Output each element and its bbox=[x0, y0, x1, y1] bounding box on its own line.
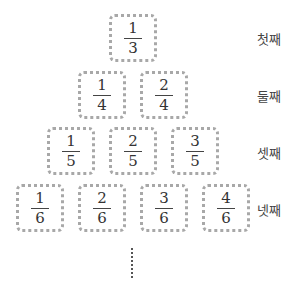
fraction-card-row4-4: 4 6 bbox=[202, 184, 250, 232]
denominator: 4 bbox=[97, 97, 107, 114]
fraction: 3 5 bbox=[186, 133, 204, 170]
fraction-card-row1-1: 1 3 bbox=[109, 14, 157, 62]
fraction-card-row3-2: 2 5 bbox=[109, 127, 157, 175]
fraction-card-row2-1: 1 4 bbox=[78, 71, 126, 119]
row-label-2: 둘째 bbox=[257, 86, 281, 105]
numerator: 2 bbox=[159, 77, 169, 94]
fraction: 1 6 bbox=[31, 190, 49, 227]
continuation-ellipsis bbox=[131, 248, 135, 278]
denominator: 5 bbox=[190, 153, 200, 170]
numerator: 1 bbox=[66, 133, 76, 150]
fraction: 1 3 bbox=[124, 20, 142, 57]
numerator: 1 bbox=[128, 20, 138, 37]
denominator: 3 bbox=[128, 40, 138, 57]
denominator: 5 bbox=[66, 153, 76, 170]
denominator: 6 bbox=[221, 210, 231, 227]
fraction: 2 6 bbox=[93, 190, 111, 227]
fraction: 1 4 bbox=[93, 77, 111, 114]
fraction: 2 4 bbox=[155, 77, 173, 114]
numerator: 2 bbox=[97, 190, 107, 207]
numerator: 3 bbox=[159, 190, 169, 207]
denominator: 6 bbox=[35, 210, 45, 227]
row-label-3: 셋째 bbox=[257, 143, 281, 162]
row-label-1: 첫째 bbox=[257, 29, 281, 48]
numerator: 4 bbox=[221, 190, 231, 207]
row-label-4: 넷째 bbox=[257, 200, 281, 219]
denominator: 4 bbox=[159, 97, 169, 114]
fraction: 1 5 bbox=[62, 133, 80, 170]
denominator: 5 bbox=[128, 153, 138, 170]
numerator: 3 bbox=[190, 133, 200, 150]
fraction-card-row3-3: 3 5 bbox=[171, 127, 219, 175]
fraction-card-row3-1: 1 5 bbox=[47, 127, 95, 175]
fraction-card-row4-2: 2 6 bbox=[78, 184, 126, 232]
fraction-card-row2-2: 2 4 bbox=[140, 71, 188, 119]
denominator: 6 bbox=[97, 210, 107, 227]
denominator: 6 bbox=[159, 210, 169, 227]
fraction: 2 5 bbox=[124, 133, 142, 170]
numerator: 2 bbox=[128, 133, 138, 150]
fraction-card-row4-1: 1 6 bbox=[16, 184, 64, 232]
numerator: 1 bbox=[97, 77, 107, 94]
fraction: 4 6 bbox=[217, 190, 235, 227]
fraction: 3 6 bbox=[155, 190, 173, 227]
numerator: 1 bbox=[35, 190, 45, 207]
fraction-card-row4-3: 3 6 bbox=[140, 184, 188, 232]
